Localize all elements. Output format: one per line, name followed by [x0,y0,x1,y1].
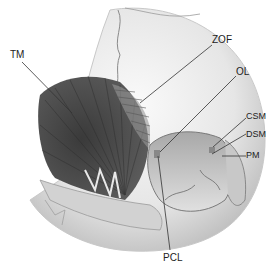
label-tm: TM [10,50,24,60]
label-dsm: DSM [246,130,266,139]
csm-marker [209,147,215,153]
label-zof: ZOF [212,35,232,45]
orbit [148,132,234,211]
anatomy-figure: TM ZOF OL CSM DSM PM PCL [0,0,272,268]
label-pcl: PCL [163,253,182,263]
label-ol: OL [236,67,249,77]
label-pm: PM [246,151,260,160]
pcl-marker [154,150,160,158]
label-csm: CSM [246,112,266,121]
